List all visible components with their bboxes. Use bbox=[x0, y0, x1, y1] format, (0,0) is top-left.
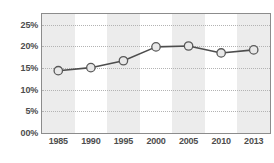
plot-area bbox=[41, 13, 271, 134]
data-point-marker[interactable] bbox=[54, 66, 62, 74]
x-axis: 1985199019952000200520102013 bbox=[41, 136, 271, 156]
data-point-marker[interactable] bbox=[250, 46, 258, 54]
x-axis-tick-label: 2005 bbox=[179, 136, 198, 146]
x-axis-tick-label: 1990 bbox=[81, 136, 100, 146]
y-axis-tick-label: 20% bbox=[2, 41, 38, 51]
data-point-marker[interactable] bbox=[119, 57, 127, 65]
y-axis-tick-label: 5% bbox=[2, 106, 38, 116]
y-axis-tick-label: 00% bbox=[2, 128, 38, 138]
data-point-marker[interactable] bbox=[184, 42, 192, 50]
y-axis-tick-label: 25% bbox=[2, 20, 38, 30]
x-axis-tick-label: 2013 bbox=[244, 136, 263, 146]
data-point-marker[interactable] bbox=[217, 49, 225, 57]
data-point-marker[interactable] bbox=[152, 43, 160, 51]
x-axis-tick-label: 2000 bbox=[146, 136, 165, 146]
line-chart: 00%5%10%15%20%25% 1985199019952000200520… bbox=[0, 0, 274, 163]
y-axis-tick-label: 10% bbox=[2, 85, 38, 95]
series-line-group bbox=[42, 14, 270, 133]
y-axis-tick-label: 15% bbox=[2, 63, 38, 73]
x-axis-tick-label: 1995 bbox=[114, 136, 133, 146]
x-axis-tick-label: 2010 bbox=[212, 136, 231, 146]
y-axis: 00%5%10%15%20%25% bbox=[0, 13, 38, 134]
data-point-marker[interactable] bbox=[87, 63, 95, 71]
x-axis-tick-label: 1985 bbox=[49, 136, 68, 146]
